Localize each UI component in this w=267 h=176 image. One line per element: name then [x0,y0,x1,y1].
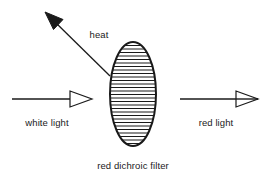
white-light-arrowhead-icon [70,91,92,107]
diagram-canvas: heat white light red light red dichroic … [0,0,267,176]
red-light-arrow [180,91,258,107]
dichroic-filter-shape [108,42,158,146]
heat-label: heat [90,29,109,40]
diagram-svg: heat white light red light red dichroic … [0,0,267,176]
filter-caption-label: red dichroic filter [97,160,169,171]
red-light-label: red light [199,117,234,128]
heat-arrow [45,12,110,76]
white-light-label: white light [24,117,69,128]
white-light-arrow [12,91,92,107]
